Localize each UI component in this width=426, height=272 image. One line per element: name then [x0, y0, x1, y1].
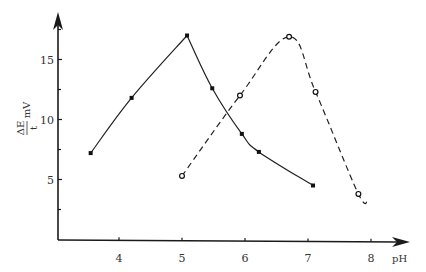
y-axis-label-denominator: t — [28, 126, 39, 130]
chart: 45678 51015 pH ΔE t mV — [0, 0, 426, 272]
data-point — [130, 96, 134, 100]
data-point — [185, 34, 189, 38]
y-axis-label-numerator: ΔE — [15, 121, 26, 136]
series-line-dashed — [182, 37, 368, 204]
y-tick-label: 5 — [47, 174, 54, 187]
series-layer — [89, 34, 368, 204]
data-point — [257, 150, 261, 154]
x-tick-label: 8 — [368, 252, 375, 265]
x-tick-label: 4 — [116, 252, 123, 265]
x-tick-label: 7 — [305, 252, 312, 265]
data-point — [238, 93, 243, 98]
y-axis-label-unit: mV — [21, 101, 32, 118]
series-dashed — [180, 34, 368, 203]
data-point — [210, 86, 214, 90]
data-point — [287, 34, 292, 39]
x-axis — [58, 240, 398, 242]
y-axis-label: ΔE t mV — [15, 101, 39, 135]
series-solid — [89, 34, 315, 188]
y-tick-label: 10 — [40, 114, 54, 127]
axes — [53, 12, 410, 247]
data-point — [180, 174, 185, 179]
data-point — [89, 151, 93, 155]
data-point — [240, 132, 244, 136]
x-tick-label: 5 — [179, 252, 186, 265]
data-point — [356, 192, 361, 197]
y-tick-label: 15 — [40, 54, 54, 67]
series-line-solid — [91, 36, 313, 186]
x-tick-label: 6 — [242, 252, 249, 265]
x-axis-label: pH — [392, 253, 407, 264]
data-point — [311, 184, 315, 188]
data-point — [313, 90, 318, 95]
